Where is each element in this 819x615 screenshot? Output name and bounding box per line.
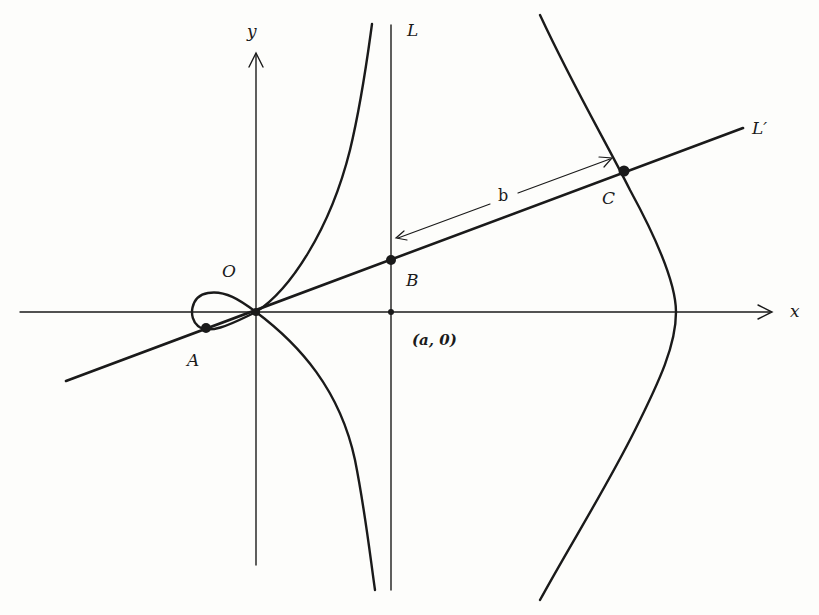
point-a0-label: (a, 0) [412,333,457,348]
point-A-label: A [187,352,199,369]
line-L-prime-label: L′ [752,120,767,137]
point-a0-dot [388,309,394,315]
curve-inner-upper-branch [256,24,372,312]
y-axis-label: y [247,23,257,40]
point-O-label: O [222,263,236,280]
point-C-dot [619,166,630,177]
measure-b-label: b [498,188,508,204]
conchoid-figure [0,0,819,615]
curve-inner-lower-branch [256,312,375,590]
point-A-dot [201,323,211,333]
measure-b-right-segment [518,159,610,193]
line-L-prime [66,128,743,381]
curve-loop [192,292,256,329]
point-B-dot [386,255,396,265]
curve-outer-branch [540,15,676,600]
point-O-dot [252,308,260,316]
measure-b-left-segment [398,204,490,238]
x-axis-label: x [790,303,800,320]
point-C-label: C [602,190,615,207]
point-B-label: B [406,272,419,289]
line-L-label: L [407,22,418,39]
